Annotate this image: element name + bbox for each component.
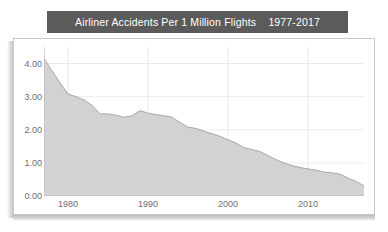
y-tick-label: 3.00	[12, 92, 42, 102]
y-tick-label: 0.00	[12, 191, 42, 201]
y-axis-labels: 0.001.002.003.004.00	[10, 47, 42, 196]
chart-title-bar: Airliner Accidents Per 1 Million Flights…	[47, 11, 348, 33]
y-tick-label: 2.00	[12, 125, 42, 135]
y-tick-label: 4.00	[12, 59, 42, 69]
area-chart-svg	[44, 47, 364, 196]
x-tick-label: 1980	[48, 199, 88, 209]
chart-figure: Airliner Accidents Per 1 Million Flights…	[0, 0, 388, 232]
plot-area	[44, 47, 364, 196]
y-tick-label: 1.00	[12, 158, 42, 168]
x-tick-label: 1990	[128, 199, 168, 209]
page-title: Airliner Accidents Per 1 Million Flights…	[75, 16, 320, 28]
x-axis-labels: 1980199020002010	[44, 199, 364, 213]
x-tick-label: 2000	[208, 199, 248, 209]
x-tick-label: 2010	[288, 199, 328, 209]
frame-shadow-bottom	[13, 215, 375, 221]
